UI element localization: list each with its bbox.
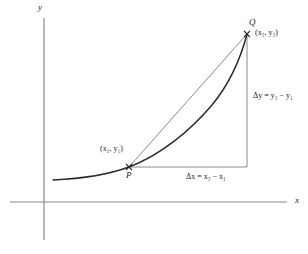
figure-container: y x Q (x₂, y₂) P (x₁, y₁) Δy = y₂ − y₁ Δ…	[0, 0, 308, 254]
delta-x-annotation: Δx = x₂ − x₁	[186, 173, 226, 181]
y-axis-label: y	[38, 3, 42, 12]
function-curve	[53, 34, 247, 180]
diagram-canvas	[0, 0, 308, 254]
point-p-label: P	[126, 171, 132, 180]
delta-y-annotation: Δy = y₂ − y₁	[253, 92, 293, 100]
point-q-label: Q	[249, 18, 256, 27]
point-q-coordinates: (x₂, y₂)	[255, 29, 278, 37]
secant-line	[129, 34, 247, 167]
point-p-coordinates: (x₁, y₁)	[100, 145, 123, 153]
x-axis-label: x	[295, 196, 299, 205]
